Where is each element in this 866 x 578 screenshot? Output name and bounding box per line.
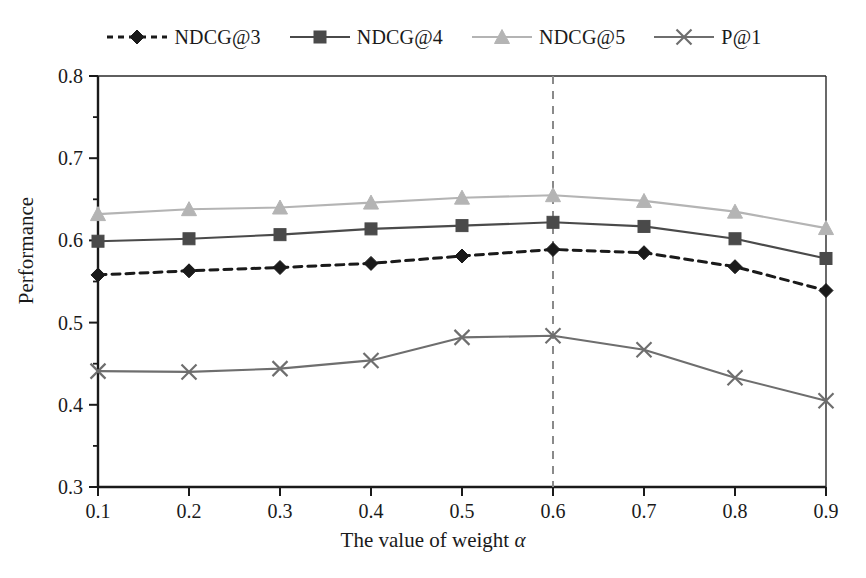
x-tick-label: 0.8 bbox=[705, 501, 765, 521]
y-tick-label: 0.5 bbox=[29, 313, 83, 333]
data-point-diamond bbox=[819, 284, 833, 298]
x-tick-label: 0.9 bbox=[796, 501, 856, 521]
x-axis-title: The value of weight α bbox=[0, 528, 866, 553]
data-point-diamond bbox=[273, 261, 287, 275]
marker-square bbox=[456, 220, 468, 232]
series-p-1 bbox=[91, 328, 834, 408]
series-ndcg-3 bbox=[91, 242, 833, 297]
plot-svg bbox=[0, 0, 866, 578]
x-tick-label: 0.4 bbox=[341, 501, 401, 521]
marker-diamond bbox=[728, 260, 742, 274]
marker-square bbox=[92, 235, 104, 247]
data-point-square bbox=[638, 220, 650, 232]
x-tick-label: 0.3 bbox=[250, 501, 310, 521]
marker-diamond bbox=[91, 268, 105, 282]
data-point-square bbox=[456, 220, 468, 232]
y-tick-label: 0.4 bbox=[29, 395, 83, 415]
marker-square bbox=[638, 220, 650, 232]
data-point-diamond bbox=[455, 249, 469, 263]
x-tick-label: 0.7 bbox=[614, 501, 674, 521]
marker-diamond bbox=[637, 246, 651, 260]
marker-square bbox=[183, 233, 195, 245]
x-axis-title-text: The value of weight bbox=[341, 528, 515, 552]
marker-square bbox=[547, 216, 559, 228]
y-tick-label: 0.3 bbox=[29, 477, 83, 497]
x-tick-label: 0.6 bbox=[523, 501, 583, 521]
marker-square bbox=[274, 229, 286, 241]
marker-square bbox=[729, 233, 741, 245]
x-tick-label: 0.2 bbox=[159, 501, 219, 521]
figure: NDCG@3NDCG@4NDCG@5P@1 Performance The va… bbox=[0, 0, 866, 578]
data-point-square bbox=[274, 229, 286, 241]
data-point-square bbox=[729, 233, 741, 245]
data-point-diamond bbox=[637, 246, 651, 260]
y-tick-label: 0.8 bbox=[29, 66, 83, 86]
x-tick-label: 0.5 bbox=[432, 501, 492, 521]
data-point-diamond bbox=[182, 264, 196, 278]
series-line bbox=[98, 336, 826, 401]
plot-area bbox=[0, 0, 866, 578]
data-point-square bbox=[820, 252, 832, 264]
marker-diamond bbox=[546, 242, 560, 256]
marker-square bbox=[820, 252, 832, 264]
data-point-diamond bbox=[546, 242, 560, 256]
data-point-square bbox=[183, 233, 195, 245]
marker-diamond bbox=[364, 256, 378, 270]
data-point-square bbox=[547, 216, 559, 228]
marker-diamond bbox=[455, 249, 469, 263]
data-point-diamond bbox=[91, 268, 105, 282]
marker-diamond bbox=[819, 284, 833, 298]
data-point-square bbox=[92, 235, 104, 247]
data-point-cross bbox=[728, 370, 743, 385]
marker-square bbox=[365, 223, 377, 235]
y-tick-label: 0.7 bbox=[29, 148, 83, 168]
data-point-square bbox=[365, 223, 377, 235]
x-axis-title-symbol: α bbox=[514, 528, 525, 552]
y-tick-label: 0.6 bbox=[29, 230, 83, 250]
data-point-diamond bbox=[728, 260, 742, 274]
marker-diamond bbox=[182, 264, 196, 278]
x-tick-label: 0.1 bbox=[68, 501, 128, 521]
marker-diamond bbox=[273, 261, 287, 275]
data-point-diamond bbox=[364, 256, 378, 270]
